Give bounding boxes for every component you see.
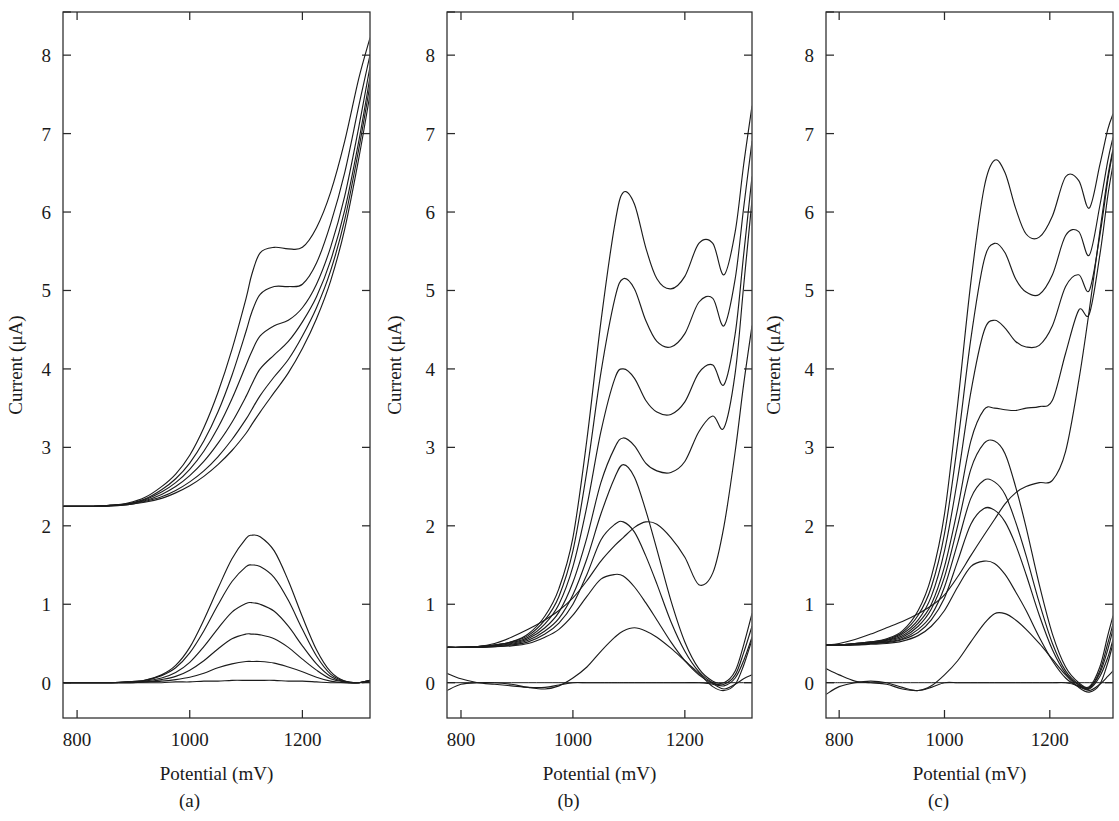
y-tick-label-2: 2 xyxy=(42,516,52,537)
y-tick-label-4: 4 xyxy=(42,359,52,380)
y-tick-label-0: 0 xyxy=(805,673,815,694)
y-tick-label-2: 2 xyxy=(805,516,815,537)
curve-cv-upper-1 xyxy=(63,38,370,506)
curve-cv-forward-5 xyxy=(826,440,1113,688)
curve-cv-forward-4 xyxy=(826,165,1113,645)
x-axis-title: Potential (mV) xyxy=(160,763,273,785)
y-tick-label-3: 3 xyxy=(805,437,815,458)
curve-dpv-peak-2 xyxy=(63,565,370,683)
curve-cv-reverse-1 xyxy=(447,628,752,691)
y-tick-label-1: 1 xyxy=(42,594,52,615)
y-axis-title: Current (μA) xyxy=(384,315,406,414)
curve-cv-forward-3 xyxy=(447,177,752,648)
curve-cv-forward-3 xyxy=(826,151,1113,645)
y-tick-label-4: 4 xyxy=(805,359,815,380)
x-tick-label-800: 800 xyxy=(447,729,476,750)
y-tick-label-6: 6 xyxy=(805,202,815,223)
curve-dpv-peak-4 xyxy=(63,634,370,683)
curve-cv-forward-1 xyxy=(447,106,752,647)
x-tick-label-1000: 1000 xyxy=(925,729,963,750)
x-tick-label-1000: 1000 xyxy=(554,729,592,750)
y-tick-label-7: 7 xyxy=(805,124,815,145)
x-axis-title: Potential (mV) xyxy=(913,763,1026,785)
curve-cv-forward-6 xyxy=(826,479,1113,688)
y-axis-title: Current (μA) xyxy=(763,315,785,414)
y-tick-label-1: 1 xyxy=(805,594,815,615)
curve-cv-forward-7 xyxy=(826,507,1113,688)
panel-a-caption: (a) xyxy=(0,790,379,812)
curve-cv-forward-2 xyxy=(447,141,752,647)
curve-cv-forward-6 xyxy=(447,521,752,685)
curve-cv-forward-1 xyxy=(826,114,1113,645)
plot-a: 01234567880010001200Potential (mV)Curren… xyxy=(0,0,379,790)
y-tick-label-5: 5 xyxy=(42,280,52,301)
curve-dpv-peak-5 xyxy=(63,661,370,683)
y-tick-label-0: 0 xyxy=(42,673,52,694)
plot-frame xyxy=(826,12,1113,718)
y-tick-label-0: 0 xyxy=(426,673,436,694)
x-tick-label-1000: 1000 xyxy=(171,729,209,750)
x-tick-label-1200: 1200 xyxy=(1031,729,1069,750)
y-tick-label-3: 3 xyxy=(42,437,52,458)
figure-root: 01234567880010001200Potential (mV)Curren… xyxy=(0,0,1119,821)
panel-c-caption: (c) xyxy=(758,790,1119,812)
y-tick-label-3: 3 xyxy=(426,437,436,458)
curve-dpv-peak-3 xyxy=(63,602,370,682)
y-tick-label-5: 5 xyxy=(805,280,815,301)
curve-dpv-peak-6 xyxy=(63,680,370,682)
plot-b: 01234567880010001200Potential (mV)Curren… xyxy=(379,0,758,790)
x-tick-label-800: 800 xyxy=(825,729,854,750)
y-tick-label-1: 1 xyxy=(426,594,436,615)
y-axis-title: Current (μA) xyxy=(5,315,27,414)
y-tick-label-7: 7 xyxy=(42,124,52,145)
curve-cv-forward-7 xyxy=(447,574,752,686)
curve-cv-upper-5 xyxy=(63,85,370,506)
x-tick-label-1200: 1200 xyxy=(283,729,321,750)
x-tick-label-1200: 1200 xyxy=(666,729,704,750)
panel-a: 01234567880010001200Potential (mV)Curren… xyxy=(0,0,379,821)
curve-cv-forward-8 xyxy=(826,561,1113,690)
curves-group xyxy=(826,114,1113,694)
curves-group xyxy=(447,106,752,690)
y-tick-label-6: 6 xyxy=(426,202,436,223)
y-tick-label-5: 5 xyxy=(426,280,436,301)
y-tick-label-7: 7 xyxy=(426,124,436,145)
curve-dpv-peak-1 xyxy=(63,535,370,683)
plot-frame xyxy=(63,12,370,718)
y-tick-label-8: 8 xyxy=(42,45,52,66)
curve-cv-upper-4 xyxy=(63,77,370,506)
x-axis-title: Potential (mV) xyxy=(543,763,656,785)
curve-cv-forward-2 xyxy=(826,138,1113,646)
y-tick-label-4: 4 xyxy=(426,359,436,380)
plot-c: 01234567880010001200Potential (mV)Curren… xyxy=(758,0,1119,790)
curve-cv-upper-3 xyxy=(63,67,370,506)
curves-group xyxy=(63,38,370,683)
x-tick-label-800: 800 xyxy=(63,729,92,750)
panel-b: 01234567880010001200Potential (mV)Curren… xyxy=(379,0,758,821)
panel-b-caption: (b) xyxy=(379,790,758,812)
y-tick-label-8: 8 xyxy=(426,45,436,66)
y-tick-label-6: 6 xyxy=(42,202,52,223)
curve-cv-forward-5 xyxy=(447,465,752,684)
y-tick-label-8: 8 xyxy=(805,45,815,66)
y-tick-label-2: 2 xyxy=(426,516,436,537)
panel-c: 01234567880010001200Potential (mV)Curren… xyxy=(758,0,1119,821)
